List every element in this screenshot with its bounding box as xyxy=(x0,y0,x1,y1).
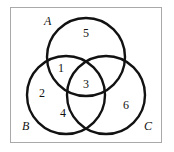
region-label-a-b: 1 xyxy=(58,62,64,74)
region-label-b-c: 4 xyxy=(60,107,66,119)
region-label-c-only: 6 xyxy=(123,99,129,111)
set-label-a: A xyxy=(44,15,51,27)
region-label-a-b-c: 3 xyxy=(83,78,89,90)
region-label-a-only: 5 xyxy=(83,27,89,39)
set-label-c: C xyxy=(144,120,152,132)
region-label-b-only: 2 xyxy=(39,87,45,99)
set-label-b: B xyxy=(22,120,29,132)
venn-diagram-figure: A B C 5 1 3 2 4 6 xyxy=(0,0,174,152)
